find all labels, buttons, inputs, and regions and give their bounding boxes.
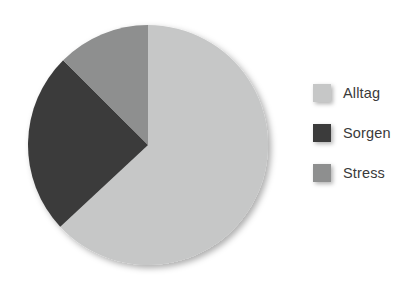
pie-graphic [27, 24, 269, 266]
legend-swatch-alltag [313, 84, 331, 102]
legend-label-stress: Stress [343, 164, 385, 182]
pie-chart: AlltagSorgenStress [0, 0, 419, 294]
legend-item-sorgen[interactable]: Sorgen [313, 122, 417, 144]
legend-swatch-stress [313, 164, 331, 182]
legend-label-alltag: Alltag [343, 84, 380, 102]
legend-item-alltag[interactable]: Alltag [313, 82, 417, 104]
chart-legend: AlltagSorgenStress [313, 82, 417, 184]
pie-slice-group [28, 25, 268, 265]
legend-label-sorgen: Sorgen [343, 124, 391, 142]
legend-item-stress[interactable]: Stress [313, 162, 417, 184]
legend-swatch-sorgen [313, 124, 331, 142]
pie-svg [27, 24, 269, 266]
